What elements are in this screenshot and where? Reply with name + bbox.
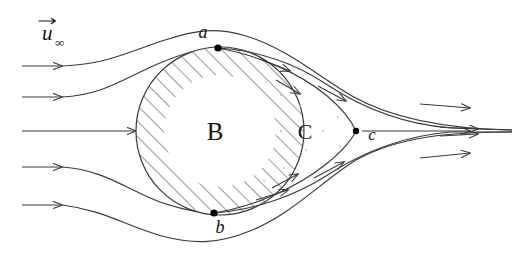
- point-label-c: c: [368, 125, 376, 144]
- point-b-dot: [210, 209, 217, 216]
- arrow-outflow-lower: [420, 153, 470, 158]
- freestream-subscript: ∞: [55, 35, 64, 50]
- figure-canvas: u ∞ B C a b c: [0, 0, 520, 255]
- wake-label-C: C: [298, 119, 313, 144]
- point-label-a: a: [199, 22, 208, 42]
- point-a-dot: [214, 44, 221, 51]
- point-c-dot: [353, 128, 359, 134]
- body-label-B: B: [207, 118, 224, 145]
- point-label-b: b: [216, 217, 225, 237]
- flow-diagram: u ∞ B C a b c: [0, 0, 520, 255]
- freestream-symbol: u: [42, 21, 53, 45]
- freestream-label: u ∞: [39, 18, 64, 50]
- arrow-outflow-upper: [420, 104, 470, 108]
